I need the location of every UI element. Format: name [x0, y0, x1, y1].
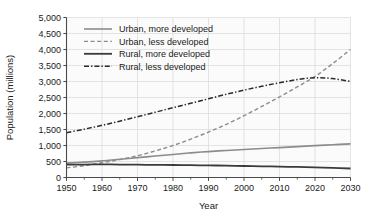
y-tick-label: 4,000	[38, 45, 61, 55]
y-tick-label: 1,000	[38, 141, 61, 151]
y-tick-label: 0	[56, 173, 61, 183]
y-axis-title: Population (millions)	[4, 55, 15, 141]
y-tick-label: 2,000	[38, 109, 61, 119]
y-tick-label: 3,500	[38, 61, 61, 71]
y-tick-label: 500	[46, 157, 61, 167]
y-tick-label: 4,500	[38, 29, 61, 39]
x-tick-label: 1970	[127, 183, 147, 193]
legend-label: Rural, less developed	[119, 62, 206, 72]
x-tick-label: 2000	[234, 183, 254, 193]
legend-label: Urban, less developed	[119, 37, 209, 47]
x-tick-label: 1960	[92, 183, 112, 193]
x-tick-label: 2020	[305, 183, 325, 193]
x-axis-title: Year	[199, 200, 218, 211]
y-tick-label: 1,500	[38, 125, 61, 135]
x-tick-label: 1990	[198, 183, 218, 193]
population-line-chart: 05001,0001,5002,0002,5003,0003,5004,0004…	[0, 0, 372, 216]
x-tick-label: 1980	[163, 183, 183, 193]
x-tick-label: 1950	[56, 183, 76, 193]
legend-label: Rural, more developed	[119, 49, 210, 59]
chart-canvas: 05001,0001,5002,0002,5003,0003,5004,0004…	[0, 0, 372, 216]
x-tick-label: 2030	[340, 183, 360, 193]
legend-label: Urban, more developed	[119, 24, 213, 34]
y-tick-label: 2,500	[38, 93, 61, 103]
y-tick-label: 3,000	[38, 77, 61, 87]
y-tick-label: 5,000	[38, 13, 61, 23]
x-tick-label: 2010	[269, 183, 289, 193]
